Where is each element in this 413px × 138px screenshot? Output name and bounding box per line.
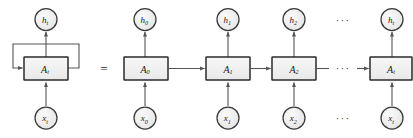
equals-sign: = bbox=[100, 61, 107, 76]
unrolled-step-0: A0 h0 x0 bbox=[124, 9, 168, 130]
unrolled-step-2: A2 h2 x2 bbox=[272, 9, 316, 130]
unrolled-rnn: A0 h0 x0 A1 bbox=[124, 9, 412, 130]
diagram-canvas: At ht xt = A0 bbox=[0, 0, 413, 138]
unrolled-step-t: At ht xt bbox=[370, 9, 412, 130]
ellipsis-bottom: ··· bbox=[336, 112, 351, 124]
ellipsis-middle: ··· bbox=[336, 62, 351, 74]
unrolled-step-1: A1 h1 x1 bbox=[206, 9, 250, 130]
folded-rnn: At ht xt bbox=[13, 9, 79, 130]
rnn-unrolling-diagram: At ht xt = A0 bbox=[0, 0, 413, 138]
ellipsis-top: ··· bbox=[336, 14, 351, 26]
